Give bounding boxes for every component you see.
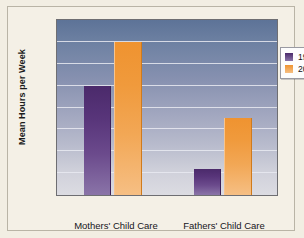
chart-legend: 1965 2011 [280,47,304,79]
plot-area-wrapper: 16 14 12 10 8 6 4 2 0 Mothers' Child Car… [56,19,278,196]
gridline-14 [57,41,277,42]
gridline-16 [57,19,277,20]
legend-entry-2011[interactable]: 2011 [285,63,304,75]
x-category-label-mothers: Mothers' Child Care [62,220,170,231]
x-category-label-fathers: Fathers' Child Care [170,220,278,231]
bar-1965-fathers[interactable] [194,169,221,195]
bar-2011-mothers[interactable] [114,42,142,195]
y-axis-label: Mean Hours per Week [17,42,27,152]
legend-label-1965: 1965 [298,52,304,62]
plot-area [56,19,278,196]
bar-1965-mothers[interactable] [84,86,111,195]
gridline-12 [57,63,277,64]
bar-2011-fathers[interactable] [224,118,252,195]
legend-swatch-2011-icon [285,65,293,73]
legend-label-2011: 2011 [298,64,304,74]
legend-swatch-1965-icon [285,53,293,61]
grouped-bar-chart: Mean Hours per Week 16 14 12 10 8 6 4 2 … [0,0,304,238]
figure-page: Mean Hours per Week 16 14 12 10 8 6 4 2 … [0,0,304,238]
legend-entry-1965[interactable]: 1965 [285,51,304,63]
